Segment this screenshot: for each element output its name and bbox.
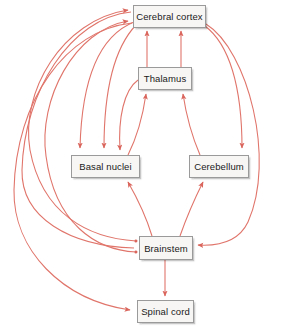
edge-cerebral-cortex-to-brainstem-left bbox=[22, 12, 134, 248]
edge-cerebral-cortex-to-cerebellum bbox=[205, 26, 242, 148]
node-label-cerebral-cortex: Cerebral cortex bbox=[136, 11, 202, 22]
node-thalamus[interactable]: Thalamus bbox=[138, 67, 192, 90]
node-label-basal-nuclei: Basal nuclei bbox=[79, 161, 131, 172]
node-label-brainstem: Brainstem bbox=[144, 243, 188, 254]
node-label-spinal-cord: Spinal cord bbox=[141, 306, 190, 317]
node-cerebral-cortex[interactable]: Cerebral cortex bbox=[133, 5, 206, 28]
edge-brainstem-to-cerebral-cortex-inner bbox=[45, 21, 136, 252]
edge-brainstem-to-basal-nuclei bbox=[128, 182, 152, 236]
node-cerebellum[interactable]: Cerebellum bbox=[189, 155, 249, 178]
node-spinal-cord[interactable]: Spinal cord bbox=[137, 300, 194, 323]
node-basal-nuclei[interactable]: Basal nuclei bbox=[71, 155, 140, 178]
edge-brainstem-to-cerebellum bbox=[180, 182, 203, 236]
node-brainstem[interactable]: Brainstem bbox=[139, 236, 193, 260]
node-label-cerebellum: Cerebellum bbox=[194, 161, 244, 172]
edge-basal-nuclei-to-thalamus bbox=[128, 94, 146, 155]
neural-pathway-diagram: Cerebral cortex Thalamus Basal nuclei Ce… bbox=[0, 0, 283, 332]
edge-cerebral-cortex-to-brainstem-right bbox=[198, 24, 259, 245]
edge-cerebellum-to-thalamus bbox=[183, 94, 200, 155]
node-label-thalamus: Thalamus bbox=[144, 73, 187, 84]
